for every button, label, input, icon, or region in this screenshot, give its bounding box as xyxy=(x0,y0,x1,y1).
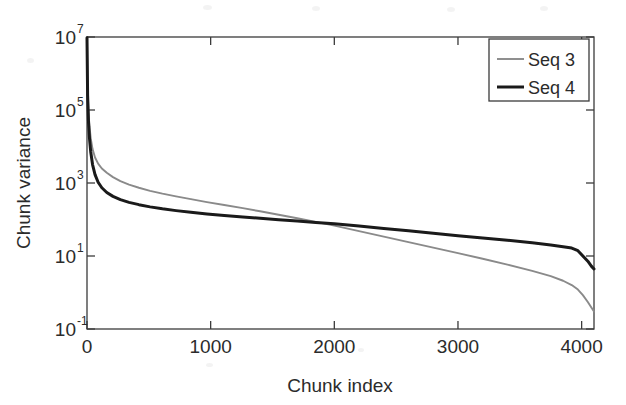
svg-text:10: 10 xyxy=(55,27,76,48)
y-tick-label: 101 xyxy=(55,241,84,267)
y-tick-label: 103 xyxy=(55,168,84,194)
svg-text:10: 10 xyxy=(55,319,76,340)
x-tick-label: 4000 xyxy=(560,336,602,357)
x-tick-label: 0 xyxy=(82,336,93,357)
y-tick-label: 107 xyxy=(55,22,84,48)
legend-label: Seq 3 xyxy=(528,50,575,70)
svg-text:5: 5 xyxy=(77,95,84,109)
svg-text:1: 1 xyxy=(77,241,84,255)
y-tick-label: 105 xyxy=(55,95,84,121)
svg-text:7: 7 xyxy=(77,22,84,36)
svg-text:3: 3 xyxy=(77,168,84,182)
svg-text:10: 10 xyxy=(55,246,76,267)
x-tick-label: 2000 xyxy=(313,336,355,357)
y-axis-title: Chunk variance xyxy=(13,117,34,249)
x-axis-title: Chunk index xyxy=(287,375,393,396)
y-axis-tick-labels: 10-1101103105107 xyxy=(55,22,88,340)
x-tick-label: 3000 xyxy=(437,336,479,357)
chart-figure: 10-1101103105107 01000200030004000 Chunk… xyxy=(0,0,626,405)
svg-text:-1: -1 xyxy=(77,314,88,328)
chart-legend[interactable]: Seq 3Seq 4 xyxy=(489,39,589,101)
x-tick-label: 1000 xyxy=(190,336,232,357)
x-axis-tick-labels: 01000200030004000 xyxy=(82,336,603,357)
legend-label: Seq 4 xyxy=(528,78,575,98)
svg-text:10: 10 xyxy=(55,173,76,194)
svg-text:10: 10 xyxy=(55,100,76,121)
